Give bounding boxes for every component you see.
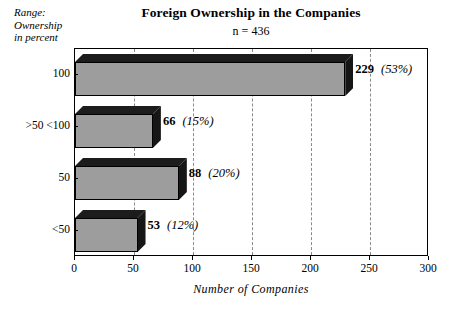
bar-top-face <box>75 210 146 218</box>
y-axis-label-1: >50 <100 <box>0 119 70 131</box>
x-axis-tick-50 <box>133 256 134 260</box>
x-axis-title: Number of Companies <box>74 282 428 297</box>
y-axis-tick-0 <box>74 74 78 75</box>
bar-value-label: 88(20%) <box>189 167 240 180</box>
range-legend-line-3: in percent <box>14 31 62 44</box>
bar-percent: (12%) <box>167 218 198 232</box>
x-axis-tick-100 <box>192 256 193 260</box>
x-axis-label-50: 50 <box>113 262 153 274</box>
y-axis-tick-3 <box>74 230 78 231</box>
range-legend-line-2: Ownership <box>14 19 62 32</box>
chart-subtitle: n = 436 <box>74 24 428 39</box>
x-axis-label-200: 200 <box>290 262 330 274</box>
bar-value: 53 <box>148 218 161 232</box>
x-axis-label-0: 0 <box>54 262 94 274</box>
bar-front-face <box>75 62 345 96</box>
bar-value-label: 66(15%) <box>163 115 214 128</box>
range-legend-line-1: Range: <box>14 6 62 19</box>
bar-percent: (15%) <box>182 114 213 128</box>
x-axis-label-150: 150 <box>231 262 271 274</box>
x-axis-label-250: 250 <box>349 262 389 274</box>
bar-front-face <box>75 114 153 148</box>
bar-front-face <box>75 218 138 252</box>
x-axis-label-300: 300 <box>408 262 448 274</box>
bar-value: 229 <box>355 62 374 76</box>
bar-percent: (20%) <box>208 166 239 180</box>
bar-top-face <box>75 106 161 114</box>
y-axis-label-0: 100 <box>0 67 70 79</box>
gridline-250 <box>370 49 371 255</box>
bar-value-label: 53(12%) <box>148 219 199 232</box>
x-axis-tick-200 <box>310 256 311 260</box>
x-axis-label-100: 100 <box>172 262 212 274</box>
plot-area <box>75 49 427 255</box>
bar-percent: (53%) <box>381 62 412 76</box>
x-axis-tick-150 <box>251 256 252 260</box>
bar-top-face <box>75 158 187 166</box>
bar-value: 88 <box>189 166 202 180</box>
range-legend: Range: Ownership in percent <box>14 6 62 44</box>
x-axis-tick-0 <box>74 256 75 260</box>
x-axis-tick-250 <box>369 256 370 260</box>
x-axis-tick-300 <box>428 256 429 260</box>
y-axis-label-3: <50 <box>0 223 70 235</box>
y-axis-tick-1 <box>74 126 78 127</box>
bar-top-face <box>75 54 353 62</box>
bar-front-face <box>75 166 179 200</box>
plot-frame <box>74 48 428 256</box>
bar-value-label: 229(53%) <box>355 63 412 76</box>
y-axis-label-2: 50 <box>0 171 70 183</box>
bar-value: 66 <box>163 114 176 128</box>
chart-title: Foreign Ownership in the Companies <box>74 5 428 21</box>
y-axis-tick-2 <box>74 178 78 179</box>
